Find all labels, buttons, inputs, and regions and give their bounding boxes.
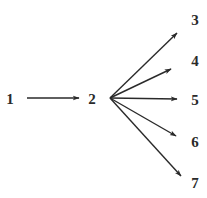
node-6-label: 6 (191, 135, 199, 150)
edge-2-4 (110, 69, 171, 98)
node-4-label: 4 (191, 54, 199, 69)
node-7-label: 7 (191, 176, 199, 191)
node-1-label: 1 (6, 92, 14, 107)
edge-2-7 (110, 98, 181, 176)
node-5-label: 5 (191, 93, 199, 108)
edge-2-5 (110, 98, 177, 99)
node-3-label: 3 (191, 13, 199, 28)
diagram-canvas (0, 0, 207, 198)
node-2-label: 2 (88, 92, 96, 107)
edge-2-6 (110, 98, 176, 136)
edge-2-3 (110, 33, 177, 98)
